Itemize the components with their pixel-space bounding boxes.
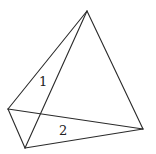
- tetrahedron-diagram: 1 2: [0, 0, 156, 154]
- face-label-1: 1: [39, 74, 47, 89]
- edge-bottom-right: [25, 129, 143, 148]
- edge-apex-right: [87, 11, 143, 129]
- diagram-svg: 1 2: [0, 0, 156, 154]
- edge-apex-bottom: [25, 11, 87, 148]
- edge-left-bottom: [8, 109, 25, 148]
- edge-apex-left: [8, 11, 87, 109]
- face-label-2: 2: [59, 123, 67, 138]
- edge-left-right: [8, 109, 143, 129]
